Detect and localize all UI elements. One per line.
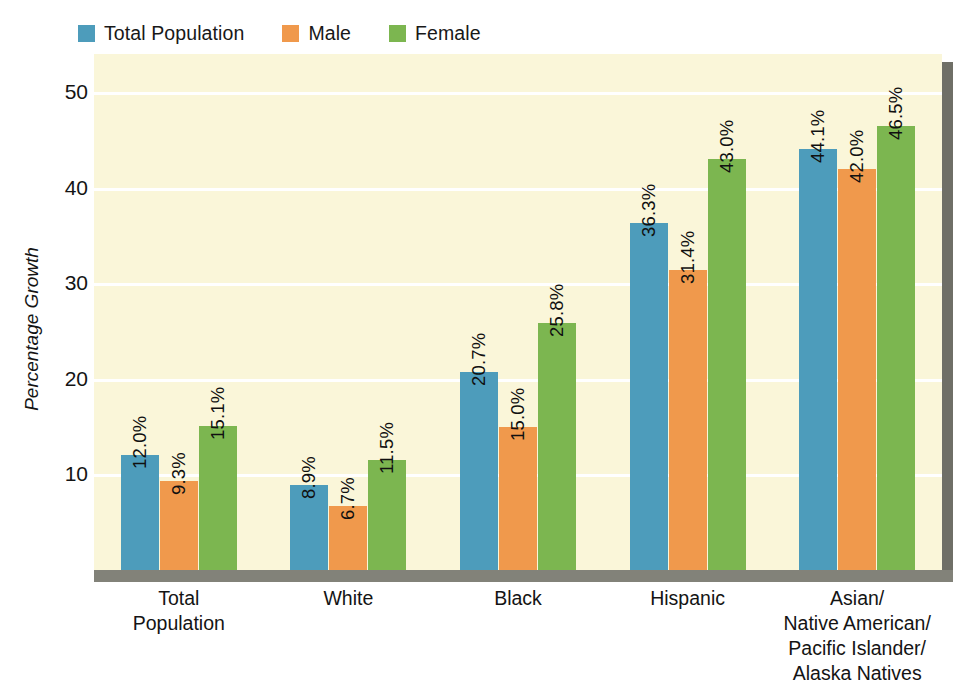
plot-baseline-shadow [94, 570, 953, 582]
bar-value-label: 20.7% [468, 333, 490, 386]
x-axis-label-line: Total [94, 586, 264, 611]
plot-shadow-right [942, 62, 953, 570]
bar [121, 455, 159, 570]
bar [799, 149, 837, 570]
bar [538, 323, 576, 570]
bar-value-label: 44.1% [807, 109, 829, 162]
x-axis-label-line: Pacific Islander/ [772, 636, 942, 661]
legend-item-male: Male [282, 22, 351, 45]
bar-value-label: 42.0% [846, 129, 868, 182]
legend-item-female: Female [389, 22, 481, 45]
y-tick-label: 30 [42, 271, 88, 295]
bar-value-label: 12.0% [129, 416, 151, 469]
bar [708, 159, 746, 570]
bar-value-label: 15.0% [507, 387, 529, 440]
bar [499, 427, 537, 570]
legend-item-total-population: Total Population [78, 22, 244, 45]
y-axis-tick-labels: 1020304050 [28, 0, 88, 692]
x-axis-label-line: White [264, 586, 434, 611]
bar-value-label: 9.3% [168, 452, 190, 495]
legend-swatch-icon [389, 25, 406, 42]
x-axis-label: Hispanic [603, 586, 773, 611]
x-axis-label: Black [433, 586, 603, 611]
x-axis-label-line: Hispanic [603, 586, 773, 611]
bar-value-label: 8.9% [298, 456, 320, 499]
gridline [94, 92, 942, 95]
x-axis-label-line: Native American/ [772, 611, 942, 636]
x-axis-label-line: Asian/ [772, 586, 942, 611]
x-axis-label: TotalPopulation [94, 586, 264, 636]
bar-value-label: 15.1% [207, 386, 229, 439]
bar-value-label: 43.0% [716, 120, 738, 173]
legend-label: Total Population [104, 22, 244, 45]
y-tick-label: 20 [42, 367, 88, 391]
bar-value-label: 6.7% [337, 477, 359, 520]
bar-value-label: 11.5% [376, 422, 398, 474]
legend-swatch-icon [282, 25, 299, 42]
bar-value-label: 31.4% [677, 230, 699, 283]
bar-value-label: 36.3% [638, 184, 660, 237]
legend-label: Female [415, 22, 481, 45]
x-axis-label-line: Population [94, 611, 264, 636]
legend-label: Male [308, 22, 351, 45]
y-tick-label: 50 [42, 80, 88, 104]
bar-chart: Total Population Male Female 12.0%9.3%15… [0, 0, 972, 692]
bar [368, 460, 406, 570]
x-axis-label-line: Alaska Natives [772, 661, 942, 686]
y-tick-label: 40 [42, 176, 88, 200]
bar-value-label: 46.5% [885, 86, 907, 139]
bar [199, 426, 237, 570]
bar-value-label: 25.8% [546, 284, 568, 337]
y-tick-label: 10 [42, 462, 88, 486]
x-axis-label: Asian/Native American/Pacific Islander/A… [772, 586, 942, 686]
chart-legend: Total Population Male Female [78, 18, 481, 48]
bar [877, 126, 915, 570]
x-axis-label: White [264, 586, 434, 611]
bar [669, 270, 707, 570]
bar [460, 372, 498, 570]
bar [630, 223, 668, 570]
x-axis-label-line: Black [433, 586, 603, 611]
plot-area: 12.0%9.3%15.1%8.9%6.7%11.5%20.7%15.0%25.… [94, 54, 942, 570]
bar [838, 169, 876, 570]
